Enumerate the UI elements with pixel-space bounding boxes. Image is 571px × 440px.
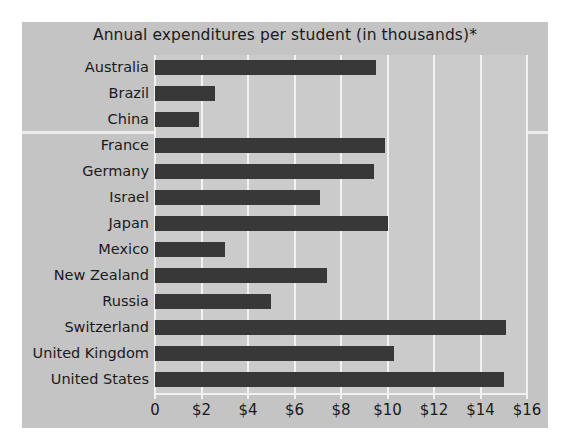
- chart-figure: Annual expenditures per student (in thou…: [22, 22, 548, 428]
- x-tick: [480, 393, 482, 399]
- category-label: Mexico: [98, 238, 149, 260]
- bar-row: Mexico: [155, 237, 527, 263]
- x-tick-label: $2: [192, 401, 211, 419]
- x-tick-label: $4: [238, 401, 257, 419]
- x-tick: [433, 393, 435, 399]
- category-label: Germany: [82, 160, 149, 182]
- bar: [155, 346, 394, 362]
- x-tick: [340, 393, 342, 399]
- x-tick-label: $16: [513, 401, 542, 419]
- bar-row: Brazil: [155, 81, 527, 107]
- bar: [155, 86, 215, 102]
- category-label: United States: [51, 368, 149, 390]
- x-tick: [294, 393, 296, 399]
- bar-row: Germany: [155, 159, 527, 185]
- x-tick-label: $6: [285, 401, 304, 419]
- bar: [155, 112, 199, 128]
- bar: [155, 294, 271, 310]
- category-label: Switzerland: [64, 316, 149, 338]
- x-tick: [387, 393, 389, 399]
- bar-row: New Zealand: [155, 263, 527, 289]
- category-label: Japan: [109, 212, 149, 234]
- category-label: United Kingdom: [33, 342, 149, 364]
- x-tick: [526, 393, 528, 399]
- bar: [155, 164, 374, 180]
- x-tick-label: 0: [150, 401, 160, 419]
- x-tick-label: $10: [373, 401, 402, 419]
- x-tick-label: $14: [466, 401, 495, 419]
- x-tick-label: $12: [420, 401, 449, 419]
- category-label: France: [101, 134, 149, 156]
- category-label: Russia: [102, 290, 149, 312]
- bar: [155, 60, 376, 76]
- x-tick: [247, 393, 249, 399]
- bar-series: AustraliaBrazilChinaFranceGermanyIsraelJ…: [155, 55, 527, 393]
- chart-title: Annual expenditures per student (in thou…: [22, 26, 548, 44]
- plot-area: AustraliaBrazilChinaFranceGermanyIsraelJ…: [155, 55, 527, 393]
- bar-row: Australia: [155, 55, 527, 81]
- bar-row: United Kingdom: [155, 341, 527, 367]
- category-label: Brazil: [109, 82, 149, 104]
- category-label: Israel: [109, 186, 149, 208]
- bar-row: France: [155, 133, 527, 159]
- category-label: New Zealand: [54, 264, 149, 286]
- bar-row: Russia: [155, 289, 527, 315]
- bar: [155, 372, 504, 388]
- bar: [155, 216, 388, 232]
- x-tick-label: $8: [331, 401, 350, 419]
- bar-row: Israel: [155, 185, 527, 211]
- bar: [155, 242, 225, 258]
- bar: [155, 268, 327, 284]
- bar-row: Japan: [155, 211, 527, 237]
- bar: [155, 190, 320, 206]
- bar-row: Switzerland: [155, 315, 527, 341]
- bar-row: China: [155, 107, 527, 133]
- bar: [155, 138, 385, 154]
- x-axis: 0$2$4$6$8$10$12$14$16: [155, 393, 527, 427]
- x-tick: [154, 393, 156, 399]
- category-label: China: [108, 108, 149, 130]
- category-label: Australia: [85, 56, 149, 78]
- bar: [155, 320, 506, 336]
- bar-row: United States: [155, 367, 527, 393]
- x-tick: [201, 393, 203, 399]
